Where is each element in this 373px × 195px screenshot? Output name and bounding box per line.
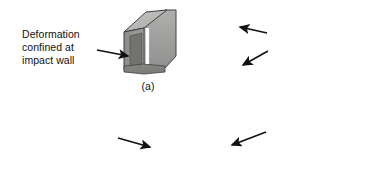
annotation-a: Deformation confined at impact wall (22, 28, 80, 67)
figure-panel-d: Large hinge progressive folding (d) (187, 98, 373, 195)
panel-caption-a: (a) (128, 80, 168, 92)
figure-panel-a: Deformation confined at impact wall (a) (0, 0, 186, 97)
annotation-a-line-1: Deformation (22, 28, 80, 41)
figure-root: Deformation confined at impact wall (a) (0, 0, 373, 195)
annotation-a-line-2: confined at (22, 41, 80, 54)
annotation-a-line-3: impact wall (22, 54, 80, 67)
specimen-photo-a (118, 6, 180, 78)
figure-panel-c: Centrally confined circumference crack (… (0, 98, 186, 195)
figure-panel-b: Longitudinal crack progression (b) (187, 0, 373, 97)
